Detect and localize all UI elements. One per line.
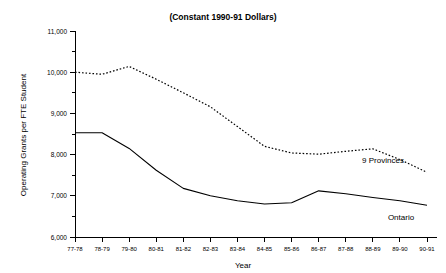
y-tick-label: 8,000	[51, 151, 68, 158]
line-chart: (Constant 1990-91 Dollars) Operating Gra…	[0, 0, 446, 273]
series-annotations: 9 ProvincesOntario	[362, 156, 415, 222]
x-tick-label: 90-91	[419, 246, 435, 252]
series-line-ontario	[75, 133, 427, 206]
chart-container: (Constant 1990-91 Dollars) Operating Gra…	[0, 0, 446, 273]
y-tick-label: 11,000	[48, 28, 68, 35]
x-tick-label: 84-85	[257, 246, 273, 252]
y-tick-label: 7,000	[51, 192, 68, 199]
y-tick-label: 6,000	[51, 234, 68, 241]
x-tick-label: 88-89	[365, 246, 381, 252]
x-axis: 77-7878-7979-8080-8181-8282-8383-8484-85…	[67, 237, 435, 252]
x-tick-label: 83-84	[230, 246, 246, 252]
x-tick-label: 82-83	[203, 246, 219, 252]
x-tick-label: 79-80	[121, 246, 137, 252]
y-tick-label: 9,000	[51, 110, 68, 117]
x-tick-label: 81-82	[176, 246, 192, 252]
series-lines	[75, 66, 427, 205]
x-axis-title: Year	[235, 261, 252, 270]
x-tick-label: 77-78	[67, 246, 83, 252]
y-axis-title: Operating Grants per FTE Student	[19, 73, 28, 196]
series-label-9-provinces: 9 Provinces	[362, 156, 404, 165]
x-tick-label: 89-90	[392, 246, 408, 252]
chart-title: (Constant 1990-91 Dollars)	[169, 12, 276, 22]
x-tick-label: 78-79	[94, 246, 110, 252]
y-tick-label: 10,000	[47, 69, 67, 76]
x-tick-label: 86-87	[311, 246, 327, 252]
x-tick-label: 80-81	[149, 246, 165, 252]
y-axis: 6,0007,0008,0009,00010,00011,000	[47, 28, 75, 241]
x-tick-label: 85-86	[284, 246, 300, 252]
series-label-ontario: Ontario	[388, 213, 415, 222]
x-tick-label: 87-88	[338, 246, 354, 252]
